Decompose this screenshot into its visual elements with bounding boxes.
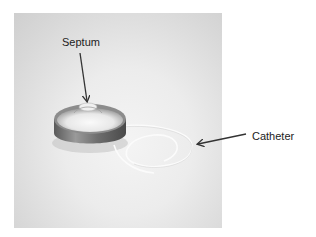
septum-label: Septum	[62, 36, 100, 48]
catheter-arrow	[198, 134, 246, 144]
septum-arrow	[80, 53, 87, 101]
callout-arrows	[0, 0, 316, 237]
catheter-label: Catheter	[252, 130, 294, 142]
